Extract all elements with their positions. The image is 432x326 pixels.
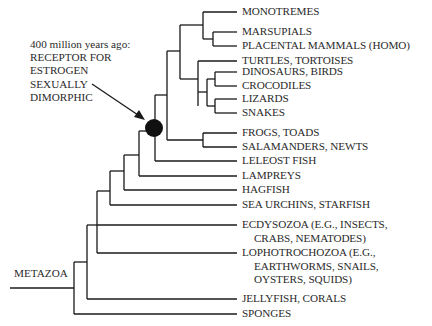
annotation-line: 400 million years ago: — [30, 38, 130, 51]
leaf-label: HAGFISH — [242, 183, 290, 197]
leaf-label-multiline: ECDYSOZOA (E.G., INSECTS, CRABS, NEMATOD… — [242, 218, 387, 245]
leaf-label-continuation: OYSTERS, SQUIDS) — [242, 273, 379, 287]
leaf-label: SNAKES — [242, 106, 285, 120]
annotation-line: RECEPTOR FOR — [30, 51, 130, 64]
leaf-label-continuation: EARTHWORMS, SNAILS, — [242, 260, 379, 274]
leaf-label-continuation: CRABS, NEMATODES) — [242, 232, 387, 246]
leaf-label: PLACENTAL MAMMALS (HOMO) — [242, 39, 410, 53]
root-label: METAZOA — [14, 267, 68, 279]
leaf-label: LAMPREYS — [242, 169, 301, 183]
leaf-label: DINOSAURS, BIRDS — [242, 65, 343, 79]
leaf-label: LELEOST FISH — [242, 154, 316, 168]
arrow-head-icon — [134, 110, 145, 120]
leaf-label: LIZARDS — [242, 92, 289, 106]
leaf-label: LOPHOTROCHOZOA (E.G., — [242, 246, 375, 258]
annotation-text: 400 million years ago: RECEPTOR FOR ESTR… — [30, 38, 130, 104]
annotation-line: DIMORPHIC — [30, 91, 130, 104]
annotation-line: SEXUALLY — [30, 78, 130, 91]
leaf-label: ECDYSOZOA (E.G., INSECTS, — [242, 218, 387, 230]
leaf-label: CROCODILES — [242, 79, 311, 93]
leaf-label: JELLYFISH, CORALS — [242, 292, 346, 306]
leaf-label: MARSUPIALS — [242, 25, 312, 39]
leaf-label-multiline: LOPHOTROCHOZOA (E.G., EARTHWORMS, SNAILS… — [242, 246, 379, 287]
leaf-label: SALAMANDERS, NEWTS — [242, 140, 368, 154]
estrogen-receptor-node-marker — [145, 119, 163, 137]
annotation-line: ESTROGEN — [30, 64, 130, 77]
leaf-label: FROGS, TOADS — [242, 126, 319, 140]
leaf-label: SPONGES — [242, 307, 291, 321]
leaf-label: MONOTREMES — [242, 5, 319, 19]
leaf-label: SEA URCHINS, STARFISH — [242, 198, 370, 212]
